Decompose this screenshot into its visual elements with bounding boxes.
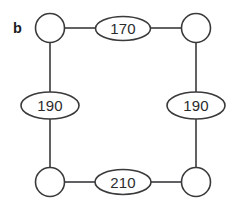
node-bottom-right[interactable] — [182, 168, 211, 197]
panel-label: b — [13, 20, 22, 36]
figure-panel-b: 170 190 190 210 b — [0, 0, 235, 208]
edge-weight-right-label: 190 — [183, 97, 209, 114]
edge-weight-right[interactable]: 190 — [167, 92, 225, 119]
node-top-left[interactable] — [36, 14, 65, 43]
edge-weight-left-label: 190 — [37, 97, 63, 114]
edge-weight-left[interactable]: 190 — [21, 92, 79, 119]
node-top-right[interactable] — [182, 14, 211, 43]
edge-weight-bottom-label: 210 — [110, 174, 136, 191]
graph-diagram: 170 190 190 210 b — [0, 0, 235, 208]
edge-weight-top-label: 170 — [110, 20, 136, 37]
edge-weight-bottom[interactable]: 210 — [95, 170, 151, 195]
node-bottom-left[interactable] — [36, 168, 65, 197]
edge-weight-top[interactable]: 170 — [96, 17, 151, 41]
